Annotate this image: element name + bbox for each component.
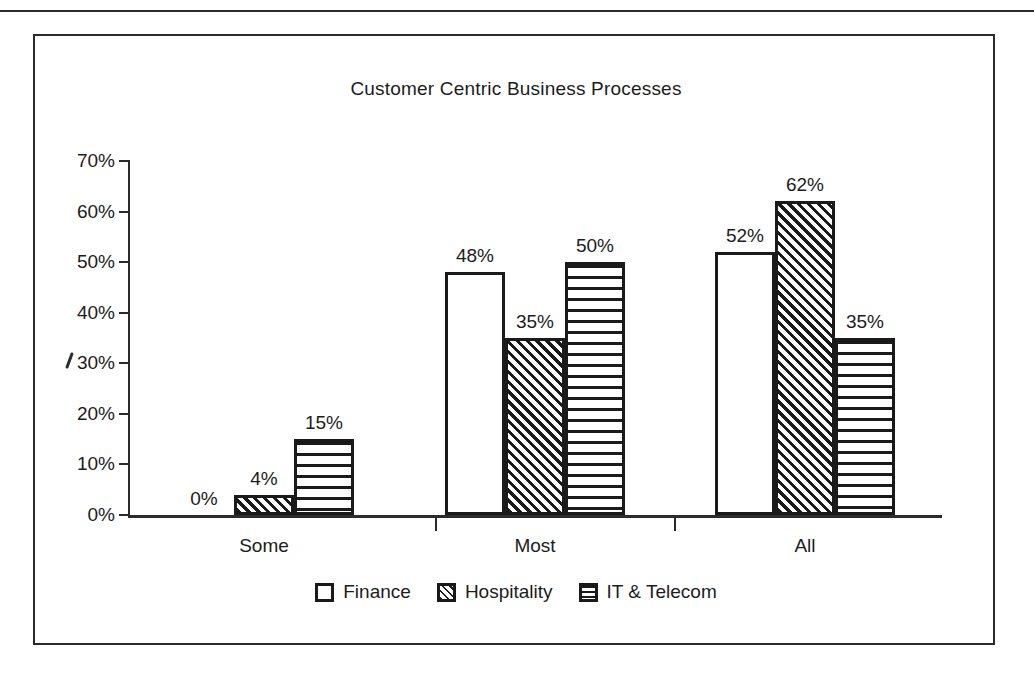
y-axis-tick [119,261,129,263]
bar-value-label: 35% [846,311,884,333]
y-axis-tick-label: 40% [35,302,115,324]
y-axis-tick-label: 70% [35,150,115,172]
bar-value-label: 0% [190,488,217,510]
bar-value-label: 15% [305,412,343,434]
y-axis-tick-label: 60% [35,201,115,223]
y-axis-tick-label: 10% [35,453,115,475]
legend-item[interactable]: IT & Telecom [579,581,717,603]
chart-legend: FinanceHospitalityIT & Telecom [35,581,997,603]
y-axis-tick-label: 0% [35,504,115,526]
bar-some-it-telecom [294,439,354,515]
bar-some-hospitality [234,495,294,515]
bar-all-hospitality [775,201,835,515]
x-axis-separator-tick [435,518,437,531]
bar-value-label: 50% [576,235,614,257]
y-axis-tick [119,413,129,415]
bar-value-label: 62% [786,174,824,196]
bar-most-it-telecom [565,262,625,515]
chart-figure-frame: Customer Centric Business Processes 0%10… [33,34,995,645]
y-axis-tick-label: 50% [35,251,115,273]
bar-all-it-telecom [835,338,895,515]
bar-value-label: 52% [726,225,764,247]
legend-item[interactable]: Hospitality [437,581,553,603]
bar-most-hospitality [505,338,565,515]
x-axis-label-all: All [794,535,815,557]
bar-value-label: 48% [456,245,494,267]
y-axis-tick [119,160,129,162]
y-axis-tick-label: 30% [35,352,115,374]
y-axis-tick-label: 20% [35,403,115,425]
legend-item[interactable]: Finance [315,581,411,603]
horizontal-stripe-square-icon [579,583,598,602]
x-axis-label-some: Some [239,535,289,557]
y-axis-tick [119,362,129,364]
diagonal-hatch-square-icon [437,583,456,602]
legend-label: Hospitality [465,581,553,603]
plain-square-icon [315,583,334,602]
legend-label: IT & Telecom [607,581,717,603]
x-axis-separator-tick [674,518,676,531]
x-axis-label-most: Most [514,535,555,557]
bar-most-finance [445,272,505,515]
y-axis-tick [119,211,129,213]
x-axis-line [128,515,942,518]
bar-all-finance [715,252,775,515]
y-axis-tick [119,312,129,314]
bar-value-label: 4% [250,468,277,490]
y-axis-tick [119,463,129,465]
plot-area: 0%10%20%30%40%50%60%70% SomeMostAll 0%4%… [35,36,997,647]
bar-value-label: 35% [516,311,554,333]
page-top-rule [0,10,1034,12]
legend-label: Finance [343,581,411,603]
